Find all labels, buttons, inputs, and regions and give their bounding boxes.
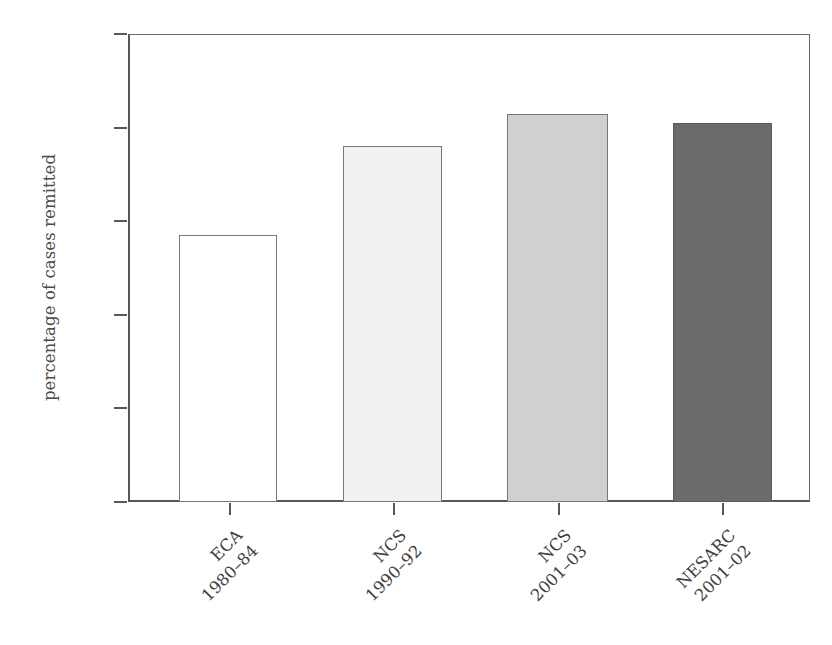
y-tick-mark xyxy=(114,127,127,129)
bar-ncs-2001-03 xyxy=(507,114,608,502)
x-tick-mark-2 xyxy=(393,503,395,515)
y-axis-title: percentage of cases remitted xyxy=(40,133,59,423)
bar-chart: percentage of cases remitted 100 80 60 4… xyxy=(0,0,832,645)
x-tick-mark-3 xyxy=(558,503,560,515)
y-tick-mark xyxy=(114,314,127,316)
y-tick-mark xyxy=(114,220,127,222)
x-axis-label-ncs-2001: NCS 2001–03 xyxy=(455,525,592,645)
x-tick-mark-4 xyxy=(722,503,724,515)
bar-nesarc-2001-02 xyxy=(673,123,772,502)
x-tick-mark-1 xyxy=(229,503,231,515)
x-axis-label-nesarc: NESARC 2001–02 xyxy=(619,525,756,645)
bar-eca-1980-84 xyxy=(179,235,277,502)
x-axis-label-ncs-1990: NCS 1990–92 xyxy=(290,525,427,645)
x-axis-label-eca: ECA 1980–84 xyxy=(126,525,263,645)
bar-ncs-1990-92 xyxy=(343,146,442,502)
y-tick-mark xyxy=(114,407,127,409)
y-tick-mark xyxy=(114,501,127,503)
y-tick-mark xyxy=(114,33,127,35)
